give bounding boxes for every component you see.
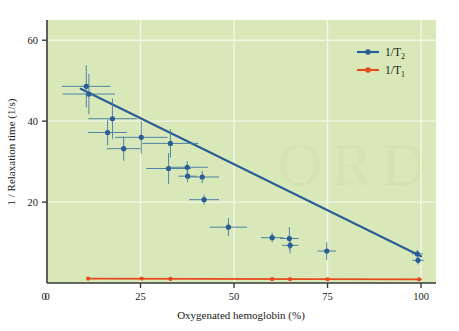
data-point-1-T2 (84, 84, 89, 89)
data-point-1-T2 (185, 165, 190, 170)
legend-marker-1-T1 (365, 67, 371, 73)
y-tick-label: 60 (28, 35, 39, 46)
data-point-1-T1 (270, 277, 274, 281)
data-point-1-T2 (324, 248, 329, 253)
data-point-1-T2 (139, 135, 144, 140)
data-point-1-T1 (417, 277, 421, 281)
data-point-1-T2 (201, 197, 206, 202)
data-point-1-T1 (325, 277, 329, 281)
plot-area-background (47, 20, 436, 283)
chart-figure: ORD 0255075100 0204060 Oxygenated hemogl… (0, 0, 459, 331)
data-point-1-T1 (288, 277, 292, 281)
data-point-1-T2 (270, 235, 275, 240)
watermark-glyph: R (331, 130, 373, 198)
watermark-glyph: D (382, 130, 427, 198)
y-axis-title: 1 / Relaxation time (1/s) (5, 98, 18, 205)
data-point-1-T2 (168, 141, 173, 146)
data-point-1-T1 (86, 276, 90, 280)
x-tick-label: 50 (229, 291, 240, 302)
data-point-1-T2 (110, 116, 115, 121)
data-point-1-T2 (86, 91, 91, 96)
relaxation-rate-scatter-plot: ORD 0255075100 0204060 Oxygenated hemogl… (0, 0, 459, 331)
data-point-1-T1 (168, 277, 172, 281)
data-point-1-T2 (121, 146, 126, 151)
plot-background (47, 20, 436, 283)
data-point-1-T2 (415, 258, 420, 263)
data-point-1-T2 (185, 174, 190, 179)
legend-label-subscript: 1 (401, 70, 405, 79)
watermark-glyph: O (278, 130, 323, 198)
data-point-1-T2 (287, 236, 292, 241)
data-point-1-T2 (415, 251, 420, 256)
y-tick-label: 0 (41, 291, 46, 302)
data-point-1-T2 (166, 166, 171, 171)
data-point-1-T2 (200, 174, 205, 179)
x-tick-label: 100 (413, 291, 429, 302)
y-tick-label: 20 (28, 197, 39, 208)
x-tick-label: 75 (322, 291, 333, 302)
fit-line-1-T1 (88, 279, 421, 280)
x-axis-title: Oxygenated hemoglobin (%) (177, 309, 305, 322)
watermark: ORD (278, 130, 427, 198)
data-point-1-T1 (140, 276, 144, 280)
data-point-1-T2 (226, 225, 231, 230)
legend-marker-1-T2 (365, 49, 371, 55)
x-tick-label: 25 (135, 291, 146, 302)
y-tick-label: 40 (28, 116, 39, 127)
data-point-1-T2 (105, 130, 110, 135)
legend-label-subscript: 2 (401, 52, 405, 61)
data-point-1-T2 (288, 243, 293, 248)
